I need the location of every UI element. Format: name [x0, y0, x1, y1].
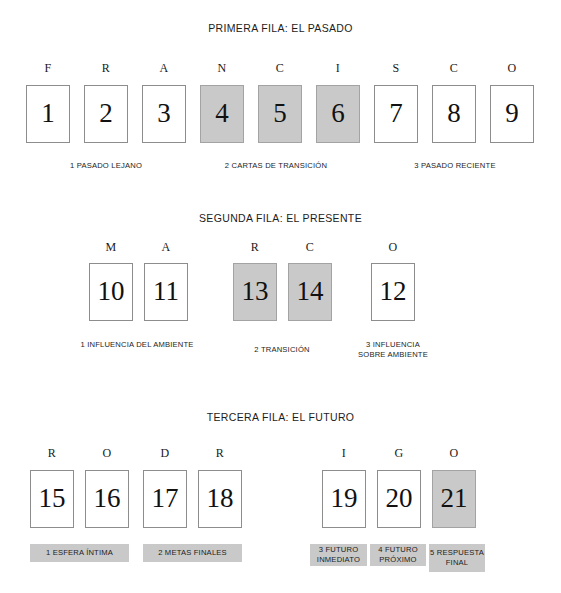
card-20[interactable]: 20 [377, 470, 421, 528]
row-1-letter-3: A [142, 61, 186, 76]
card-18-number: 18 [207, 485, 234, 512]
card-20-number: 20 [386, 485, 413, 512]
card-16-number: 16 [94, 485, 121, 512]
card-16[interactable]: 16 [85, 470, 129, 528]
row-3-title: TERCERA FILA: EL FUTURO [0, 411, 561, 423]
spread-diagram: PRIMERA FILA: EL PASADO F R A N C I S C … [0, 0, 561, 593]
card-3-number: 3 [157, 100, 171, 127]
card-12-number: 12 [380, 278, 407, 305]
card-11-number: 11 [153, 278, 179, 305]
card-7-number: 7 [389, 100, 403, 127]
card-21[interactable]: 21 [432, 470, 476, 528]
row-1-letter-1: F [26, 61, 70, 76]
row-3-caption-4: 4 FUTURO PRÓXIMO [370, 544, 426, 566]
row-3-caption-3: 3 FUTURO INMEDIATO [310, 544, 367, 566]
row-1-letter-7: S [374, 61, 418, 76]
card-19-number: 19 [331, 485, 358, 512]
card-4-number: 4 [215, 100, 229, 127]
card-1[interactable]: 1 [26, 85, 70, 143]
row-2-letter-2: A [144, 240, 188, 255]
card-14[interactable]: 14 [288, 263, 332, 321]
card-1-number: 1 [41, 100, 55, 127]
row-1-title: PRIMERA FILA: EL PASADO [0, 22, 561, 34]
card-11[interactable]: 11 [144, 263, 188, 321]
row-2-letter-4: C [288, 240, 332, 255]
row-2-letter-5: O [371, 240, 415, 255]
card-5[interactable]: 5 [258, 85, 302, 143]
row-3-caption-5: 5 RESPUESTA FINAL [429, 544, 485, 572]
card-19[interactable]: 19 [322, 470, 366, 528]
card-7[interactable]: 7 [374, 85, 418, 143]
row-3-caption-1: 1 ESFERA ÍNTIMA [30, 544, 129, 562]
row-3-caption-2: 2 METAS FINALES [143, 544, 242, 562]
card-2[interactable]: 2 [84, 85, 128, 143]
row-1-letter-8: C [432, 61, 476, 76]
row-2-caption-1: 1 INFLUENCIA DEL AMBIENTE [72, 340, 202, 350]
row-3-letter-3: D [143, 446, 187, 461]
row-1-caption-3: 3 PASADO RECIENTE [376, 161, 534, 171]
card-10[interactable]: 10 [89, 263, 133, 321]
card-12[interactable]: 12 [371, 263, 415, 321]
row-1-letter-6: I [316, 61, 360, 76]
row-2-caption-3: 3 INFLUENCIA SOBRE AMBIENTE [353, 340, 433, 360]
row-2-title: SEGUNDA FILA: EL PRESENTE [0, 212, 561, 224]
card-9[interactable]: 9 [490, 85, 534, 143]
card-6[interactable]: 6 [316, 85, 360, 143]
row-1-letter-2: R [84, 61, 128, 76]
card-3[interactable]: 3 [142, 85, 186, 143]
card-6-number: 6 [331, 100, 345, 127]
card-15[interactable]: 15 [30, 470, 74, 528]
row-2-letter-3: R [233, 240, 277, 255]
row-3-letter-4: R [198, 446, 242, 461]
card-21-number: 21 [441, 485, 468, 512]
card-5-number: 5 [273, 100, 287, 127]
card-17[interactable]: 17 [143, 470, 187, 528]
card-2-number: 2 [99, 100, 113, 127]
row-1-caption-2: 2 CARTAS DE TRANSICIÓN [190, 161, 362, 171]
row-2-caption-2: 2 TRANSICIÓN [222, 345, 342, 355]
card-13-number: 13 [242, 278, 269, 305]
card-4[interactable]: 4 [200, 85, 244, 143]
card-8-number: 8 [447, 100, 461, 127]
card-17-number: 17 [152, 485, 179, 512]
card-10-number: 10 [98, 278, 125, 305]
row-3-letter-2: O [85, 446, 129, 461]
row-3-letter-7: O [432, 446, 476, 461]
card-13[interactable]: 13 [233, 263, 277, 321]
card-9-number: 9 [505, 100, 519, 127]
row-3-letter-1: R [30, 446, 74, 461]
row-1-caption-1: 1 PASADO LEJANO [26, 161, 186, 171]
row-2-letter-1: M [89, 240, 133, 255]
row-3-letter-6: G [377, 446, 421, 461]
card-15-number: 15 [39, 485, 66, 512]
row-1-letter-5: C [258, 61, 302, 76]
row-1-letter-4: N [200, 61, 244, 76]
row-1-letter-9: O [490, 61, 534, 76]
row-3-letter-5: I [322, 446, 366, 461]
card-8[interactable]: 8 [432, 85, 476, 143]
card-18[interactable]: 18 [198, 470, 242, 528]
card-14-number: 14 [297, 278, 324, 305]
